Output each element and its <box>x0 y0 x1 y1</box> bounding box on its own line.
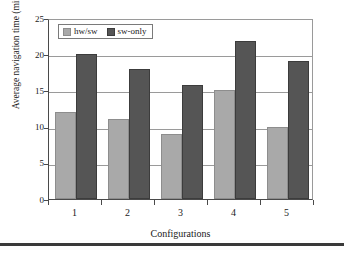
bar-sw-only-1 <box>76 54 97 199</box>
legend-swatch-hw-sw <box>63 28 71 36</box>
legend-entry-hw-sw: hw/sw <box>63 27 98 36</box>
bar-sw-only-5 <box>288 61 309 199</box>
x-tick-mark <box>313 200 314 205</box>
bar-sw-only-4 <box>235 41 256 199</box>
legend-label-hw-sw: hw/sw <box>74 27 98 36</box>
x-tick-label: 2 <box>113 207 143 218</box>
legend-label-sw-only: sw-only <box>118 27 147 36</box>
bar-hw-sw-3 <box>161 134 182 199</box>
x-tick-mark <box>101 200 102 205</box>
x-tick-label: 3 <box>166 207 196 218</box>
plot-area <box>48 19 313 200</box>
y-tick-label: 0 <box>4 196 44 205</box>
x-axis-title: Configurations <box>48 228 313 239</box>
y-tick-label: 25 <box>4 15 44 24</box>
y-tick-label: 10 <box>4 123 44 132</box>
x-tick-label: 4 <box>219 207 249 218</box>
legend-swatch-sw-only <box>107 28 115 36</box>
bar-hw-sw-5 <box>267 127 288 199</box>
y-tick-label: 15 <box>4 87 44 96</box>
x-tick-mark <box>260 200 261 205</box>
bar-chart-figure: Average navigation time (min) 0510152025… <box>0 0 344 255</box>
y-tick-label: 20 <box>4 51 44 60</box>
x-tick-mark <box>154 200 155 205</box>
x-tick-mark <box>48 200 49 205</box>
legend-entry-sw-only: sw-only <box>107 27 147 36</box>
bar-sw-only-3 <box>182 85 203 199</box>
bar-hw-sw-4 <box>214 90 235 199</box>
x-tick-mark <box>207 200 208 205</box>
x-tick-label: 5 <box>272 207 302 218</box>
x-tick-label: 1 <box>60 207 90 218</box>
bar-sw-only-2 <box>129 69 150 199</box>
y-tick-label: 5 <box>4 159 44 168</box>
bar-hw-sw-1 <box>55 112 76 199</box>
bar-hw-sw-2 <box>108 119 129 199</box>
bottom-rule <box>0 243 344 246</box>
chart-legend: hw/sw sw-only <box>58 24 153 39</box>
